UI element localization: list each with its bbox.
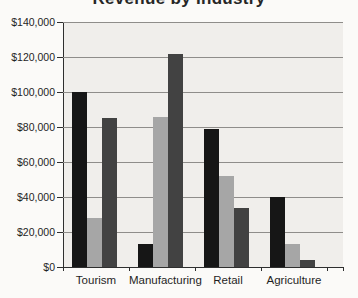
y-axis-label-120000: $120,000: [0, 51, 55, 63]
bar-black-manufacturing: [138, 244, 153, 267]
y-tick-120000: [57, 57, 63, 58]
bar-black-retail: [204, 129, 219, 267]
x-axis-label-agriculture: Agriculture: [261, 274, 327, 286]
bar-light-gray-tourism: [87, 218, 102, 267]
bar-black-tourism: [72, 92, 87, 267]
x-tick-3: [261, 267, 262, 271]
gridline-120000: [63, 57, 343, 58]
bar-black-agriculture: [270, 197, 285, 267]
x-tick-2: [195, 267, 196, 271]
bar-light-gray-agriculture: [285, 244, 300, 267]
y-tick-140000: [57, 22, 63, 23]
x-tick-4: [327, 267, 328, 271]
y-tick-100000: [57, 92, 63, 93]
x-tick-5: [343, 267, 344, 271]
y-axis-label-80000: $80,000: [0, 121, 55, 133]
y-axis-label-100000: $100,000: [0, 86, 55, 98]
bar-light-gray-retail: [219, 176, 234, 267]
y-axis-label-60000: $60,000: [0, 156, 55, 168]
x-axis-label-tourism: Tourism: [63, 274, 129, 286]
x-axis-line: [63, 267, 344, 268]
bar-dark-gray-agriculture: [300, 260, 315, 267]
bar-dark-gray-manufacturing: [168, 54, 183, 268]
y-tick-20000: [57, 232, 63, 233]
x-axis-label-retail: Retail: [195, 274, 261, 286]
bar-light-gray-manufacturing: [153, 117, 168, 268]
y-tick-40000: [57, 197, 63, 198]
y-axis-label-140000: $140,000: [0, 16, 55, 28]
x-tick-0: [63, 267, 64, 271]
bar-dark-gray-tourism: [102, 118, 117, 267]
x-tick-1: [129, 267, 130, 271]
bar-dark-gray-retail: [234, 208, 249, 268]
y-tick-80000: [57, 127, 63, 128]
bar-chart: Revenue by Industry $0$20,000$40,000$60,…: [0, 0, 358, 298]
gridline-140000: [63, 22, 343, 23]
y-axis-label-20000: $20,000: [0, 226, 55, 238]
y-tick-60000: [57, 162, 63, 163]
x-axis-label-manufacturing: Manufacturing: [129, 274, 195, 286]
chart-title: Revenue by Industry: [0, 0, 358, 9]
y-axis-label-40000: $40,000: [0, 191, 55, 203]
gridline-100000: [63, 92, 343, 93]
y-axis-label-0: $0: [0, 261, 55, 273]
